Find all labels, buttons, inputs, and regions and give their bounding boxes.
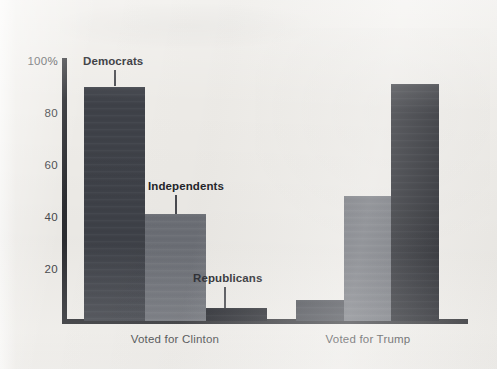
- bar-ink-texture: [296, 300, 344, 321]
- bar-ink-texture: [206, 308, 267, 321]
- bar-trump-independents[interactable]: [344, 196, 391, 321]
- bar-clinton-democrats[interactable]: [84, 87, 145, 321]
- y-axis-tick-labels: 100% 80 60 40 20: [8, 0, 58, 369]
- y-tick-label-20: 20: [14, 263, 58, 275]
- bar-trump-republicans[interactable]: [391, 84, 439, 321]
- bar-ink-texture: [84, 87, 145, 321]
- bar-ink-texture: [344, 196, 391, 321]
- bar-ink-texture: [391, 84, 439, 321]
- callout-label-independents: Independents: [148, 180, 224, 192]
- bar-ink-texture: [145, 214, 206, 321]
- y-tick-label-100: 100%: [14, 55, 58, 67]
- callout-label-republicans: Republicans: [193, 272, 262, 284]
- plot-area: 100% 80 60 40 20 Democrats: [0, 0, 497, 369]
- y-tick-label-60: 60: [14, 159, 58, 171]
- callout-leader-line: [224, 287, 226, 308]
- callout-label-democrats: Democrats: [83, 55, 143, 67]
- callout-leader-line: [175, 195, 177, 214]
- bar-chart: 100% 80 60 40 20 Democrats: [0, 0, 497, 369]
- x-group-label-trump: Voted for Trump: [288, 333, 448, 345]
- x-group-label-clinton: Voted for Clinton: [95, 333, 255, 345]
- y-axis-line: [62, 58, 67, 324]
- callout-leader-line: [114, 70, 116, 86]
- bar-clinton-republicans[interactable]: [206, 308, 267, 321]
- bar-clinton-independents[interactable]: [145, 214, 206, 321]
- y-tick-label-40: 40: [14, 211, 58, 223]
- y-tick-label-80: 80: [14, 107, 58, 119]
- bar-trump-democrats[interactable]: [296, 300, 344, 321]
